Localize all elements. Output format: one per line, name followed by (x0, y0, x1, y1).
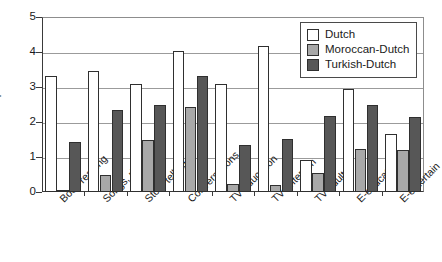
bar (45, 76, 57, 192)
bar (343, 89, 355, 192)
bar-group (84, 17, 126, 192)
bar (282, 139, 294, 192)
legend-label: Dutch (325, 29, 355, 41)
bar (312, 173, 324, 192)
bar (385, 134, 397, 192)
y-tick-label: 5 (14, 11, 36, 23)
legend-swatch-icon (307, 29, 319, 41)
y-tick-label: 0 (14, 186, 36, 198)
bar-group (212, 17, 254, 192)
bar (355, 149, 367, 192)
legend-item: Dutch (307, 27, 409, 42)
bar (173, 51, 185, 192)
bar (300, 160, 312, 192)
legend-item: Moroccan-Dutch (307, 42, 409, 57)
y-tick-label: 3 (14, 81, 36, 93)
bar (142, 140, 154, 193)
bar (367, 105, 379, 193)
bar (100, 175, 112, 193)
legend-item: Turkish-Dutch (307, 57, 409, 72)
y-tick-mark (36, 192, 42, 193)
bar (69, 142, 81, 192)
bar (197, 76, 209, 192)
y-axis-title: Input (0, 81, 1, 107)
bar-group (127, 17, 169, 192)
legend-swatch-icon (307, 44, 319, 56)
y-tick-label: 1 (14, 151, 36, 163)
legend-swatch-icon (307, 59, 319, 71)
bar-group (42, 17, 84, 192)
bar (215, 84, 227, 193)
bar (409, 117, 421, 192)
bar (397, 150, 409, 192)
bar (258, 46, 270, 192)
bar (227, 184, 239, 192)
y-tick-label: 4 (14, 46, 36, 58)
bar (324, 116, 336, 192)
x-axis-labels: Book readingSongs, rhymesStory tellingCo… (42, 196, 424, 262)
bar (57, 190, 69, 192)
bar (270, 185, 282, 192)
bar (88, 71, 100, 192)
legend-label: Moroccan-Dutch (325, 44, 409, 56)
bar (154, 105, 166, 193)
bar (112, 110, 124, 192)
bar (185, 107, 197, 192)
legend-label: Turkish-Dutch (325, 59, 396, 71)
legend: DutchMoroccan-DutchTurkish-Dutch (300, 22, 417, 78)
bar (239, 145, 251, 192)
bar-group (254, 17, 296, 192)
bar (130, 84, 142, 192)
bar-group (169, 17, 211, 192)
y-tick-label: 2 (14, 116, 36, 128)
